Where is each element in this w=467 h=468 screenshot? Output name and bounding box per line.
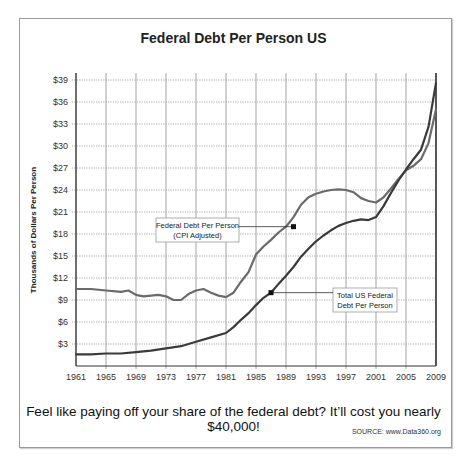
x-tick-label: 1985 [246, 372, 266, 382]
y-tick-label: $36 [53, 97, 68, 107]
x-tick-label: 1973 [156, 372, 176, 382]
y-tick-label: $15 [53, 251, 68, 261]
y-tick-label: $9 [58, 295, 68, 305]
x-tick-label: 2005 [396, 372, 416, 382]
grid-lines [72, 73, 436, 369]
y-tick-label: $39 [53, 75, 68, 85]
chart-plot: $3$6$9$12$15$18$21$24$27$30$33$36$39 196… [0, 0, 467, 468]
annotation-marker-total [269, 290, 274, 295]
annotation-marker-cpi [291, 224, 296, 229]
y-tick-label: $21 [53, 207, 68, 217]
x-tick-label: 1961 [66, 372, 86, 382]
x-tick-label: 2009 [426, 372, 446, 382]
x-tick-label: 1989 [276, 372, 296, 382]
x-tick-label: 1981 [216, 372, 236, 382]
annotations: Federal Debt Per Person(CPI Adjusted)Tot… [156, 218, 397, 312]
x-tick-label: 1965 [96, 372, 116, 382]
x-tick-label: 2001 [366, 372, 386, 382]
y-tick-label: $6 [58, 317, 68, 327]
y-tick-label: $27 [53, 163, 68, 173]
y-tick-label: $24 [53, 185, 68, 195]
y-tick-label: $33 [53, 119, 68, 129]
x-tick-label: 1969 [126, 372, 146, 382]
x-tick-label: 1993 [306, 372, 326, 382]
x-tick-label: 1977 [186, 372, 206, 382]
x-tick-label: 1997 [336, 372, 356, 382]
annotation-text-cpi: (CPI Adjusted) [173, 231, 222, 240]
annotation-text-total: Total US Federal [337, 291, 393, 300]
annotation-text-total: Debt Per Person [337, 301, 392, 310]
y-tick-label: $30 [53, 141, 68, 151]
x-tick-labels: 1961196519691973197719811985198919931997… [66, 372, 446, 382]
y-tick-labels: $3$6$9$12$15$18$21$24$27$30$33$36$39 [53, 75, 68, 349]
y-tick-label: $3 [58, 339, 68, 349]
y-tick-label: $18 [53, 229, 68, 239]
source-note: SOURCE: www.Data360.org [352, 428, 441, 435]
annotation-text-cpi: Federal Debt Per Person [156, 221, 239, 230]
y-tick-label: $12 [53, 273, 68, 283]
